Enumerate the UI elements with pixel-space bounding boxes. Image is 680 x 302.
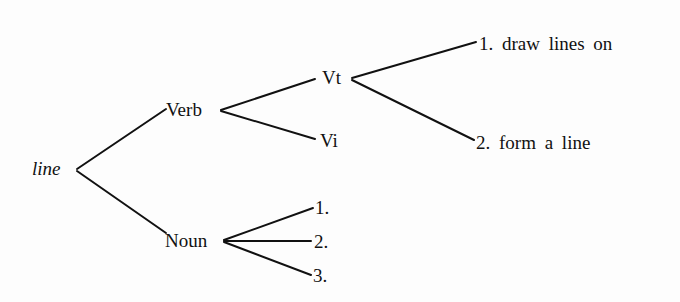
node-verb: Verb [166, 100, 202, 119]
root-node-line: line [32, 159, 61, 178]
edge-noun-1 [224, 208, 313, 240]
node-noun: Noun [165, 231, 207, 250]
node-vi: Vi [320, 131, 338, 150]
edge-line-verb [77, 109, 166, 169]
node-vt-sense-1: 1. draw lines on [479, 34, 612, 53]
node-noun-sense-2: 2. [314, 232, 328, 251]
word-sense-tree-diagram: line Verb Noun Vt Vi 1. draw lines on 2.… [0, 0, 680, 302]
edge-vt-sense1 [352, 42, 476, 78]
node-vt-sense-2: 2. form a line [476, 133, 590, 152]
edge-line-noun [77, 171, 166, 233]
node-vt: Vt [322, 68, 341, 87]
node-noun-sense-1: 1. [315, 198, 329, 217]
edge-noun-3 [224, 242, 311, 275]
edge-verb-vi [221, 111, 315, 139]
node-noun-sense-3: 3. [313, 266, 327, 285]
edge-verb-vt [221, 79, 315, 110]
edge-vt-sense2 [352, 80, 474, 140]
